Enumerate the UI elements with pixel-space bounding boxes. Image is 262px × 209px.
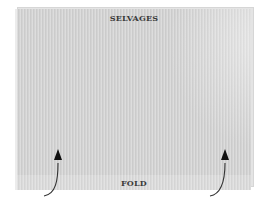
right-fold-arrow-icon	[210, 149, 229, 196]
fold-arrows	[0, 0, 262, 209]
left-fold-arrow-icon	[44, 149, 62, 196]
